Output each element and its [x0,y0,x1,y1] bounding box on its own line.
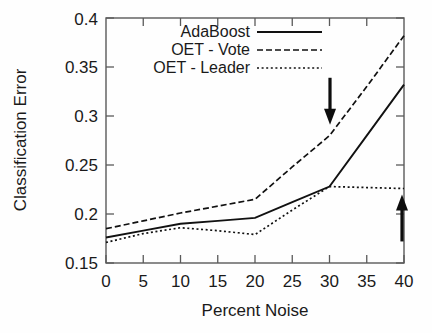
y-tick-label-4: 0.35 [65,58,98,77]
classification-error-line-chart: 0.15 0.2 0.25 0.3 0.35 0.4 0 5 10 15 20 … [0,0,432,333]
x-tick-label-3: 15 [208,272,227,291]
x-tick-label-2: 10 [171,272,190,291]
y-tick-label-1: 0.2 [74,205,98,224]
plot-frame [106,18,404,263]
x-axis-title: Percent Noise [202,301,309,320]
x-tick-label-0: 0 [101,272,110,291]
chart-figure: 0.15 0.2 0.25 0.3 0.35 0.4 0 5 10 15 20 … [0,0,432,333]
x-tick-label-6: 30 [320,272,339,291]
legend-label-oet-leader: OET - Leader [153,59,250,76]
y-tick-label-2: 0.25 [65,156,98,175]
up-arrow-annotation [396,194,408,241]
x-tick-label-1: 5 [139,272,148,291]
series-oet-vote [106,36,404,229]
down-arrow-annotation [324,78,336,125]
y-axis-ticks [106,18,404,263]
y-axis-title: Classification Error [11,68,30,211]
x-tick-label-7: 35 [357,272,376,291]
legend-label-adaboost: AdaBoost [181,23,251,40]
chart-legend: AdaBoost OET - Vote OET - Leader [153,23,322,76]
legend-label-oet-vote: OET - Vote [171,41,250,58]
x-tick-label-5: 25 [283,272,302,291]
x-tick-label-4: 20 [246,272,265,291]
x-axis-ticks [106,18,404,263]
x-axis-tick-labels: 0 5 10 15 20 25 30 35 40 [101,272,413,291]
y-axis-tick-labels: 0.15 0.2 0.25 0.3 0.35 0.4 [65,10,98,273]
y-tick-label-5: 0.4 [74,10,98,29]
series-adaboost [106,85,404,238]
x-tick-label-8: 40 [395,272,414,291]
series-oet-leader [106,187,404,243]
y-tick-label-3: 0.3 [74,107,98,126]
y-tick-label-0: 0.15 [65,254,98,273]
